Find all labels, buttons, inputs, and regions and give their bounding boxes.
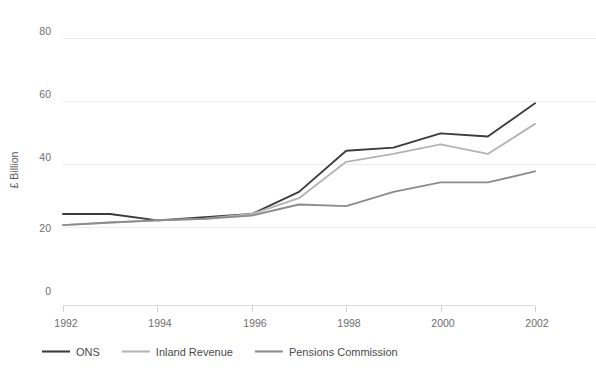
y-axis-tick-labels: 80 60 40 20 0	[39, 25, 51, 297]
chart-canvas: 80 60 40 20 0 £ Billion 1992 1994 1996 1…	[0, 0, 596, 379]
x-tick-label-2000: 2000	[431, 317, 455, 329]
y-tick-label-0: 0	[45, 285, 51, 297]
legend-label-inland-revenue: Inland Revenue	[156, 346, 233, 358]
x-axis-tick-labels: 1992 1994 1996 1998 2000 2002	[54, 317, 549, 329]
y-axis-title: £ Billion	[8, 151, 20, 188]
series-line-ons	[63, 103, 535, 220]
line-chart: 80 60 40 20 0 £ Billion 1992 1994 1996 1…	[0, 0, 596, 379]
y-tick-label-20: 20	[39, 222, 51, 234]
legend-label-ons: ONS	[76, 346, 100, 358]
x-tick-label-1998: 1998	[337, 317, 361, 329]
x-tick-label-1994: 1994	[148, 317, 172, 329]
y-tick-label-80: 80	[39, 25, 51, 37]
legend-label-pensions-commission: Pensions Commission	[289, 346, 398, 358]
x-tick-label-2002: 2002	[525, 317, 549, 329]
series-line-inland-revenue	[63, 124, 535, 225]
y-tick-label-60: 60	[39, 88, 51, 100]
gridlines	[63, 39, 596, 228]
x-tick-label-1996: 1996	[243, 317, 267, 329]
legend: ONS Inland Revenue Pensions Commission	[42, 346, 398, 358]
x-axis-ticks	[64, 306, 536, 313]
x-tick-label-1992: 1992	[54, 317, 78, 329]
y-tick-label-40: 40	[39, 151, 51, 163]
